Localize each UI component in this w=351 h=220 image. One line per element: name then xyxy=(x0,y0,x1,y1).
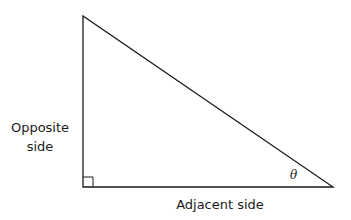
adjacent-side-label: Adjacent side xyxy=(160,195,280,214)
triangle-outline xyxy=(83,16,333,187)
right-angle-marker xyxy=(83,177,93,187)
opposite-side-label: Opposite side xyxy=(2,118,78,156)
theta-angle-label: θ xyxy=(290,168,297,182)
right-triangle xyxy=(0,0,351,220)
